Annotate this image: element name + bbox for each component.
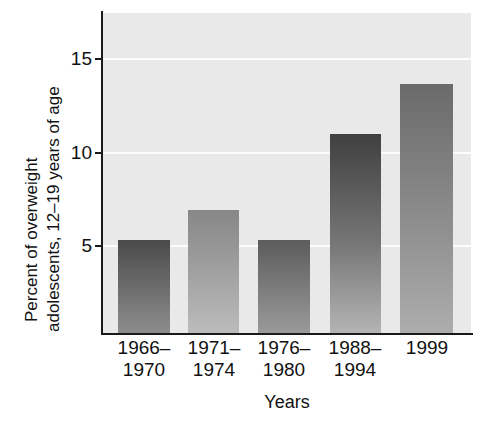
x-tick-label-2-line-1: 1971– xyxy=(178,337,250,359)
x-axis-line xyxy=(101,333,473,335)
chart-figure: Percent of overweight adolescents, 12–19… xyxy=(0,0,486,426)
plot-area xyxy=(103,13,471,333)
bar-1988-1994 xyxy=(330,134,381,333)
x-tick-label-5-line-1: 1999 xyxy=(391,337,463,359)
y-tick-label-5: 5 xyxy=(52,236,92,255)
bar-1971-1974 xyxy=(188,210,239,333)
bar-1999 xyxy=(400,84,453,333)
y-tick-label-10: 10 xyxy=(52,143,92,162)
gridline-15 xyxy=(103,58,471,60)
x-tick-label-4: 1988– 1994 xyxy=(319,337,391,381)
x-tick-label-3: 1976– 1980 xyxy=(248,337,320,381)
y-axis-title-line-1: Percent of overweight xyxy=(22,158,42,322)
x-axis-tick-labels: 1966– 1970 1971– 1974 1976– 1980 1988– 1… xyxy=(103,337,471,389)
x-tick-label-5: 1999 xyxy=(391,337,463,359)
x-tick-label-1-line-1: 1966– xyxy=(108,337,180,359)
bar-1966-1970 xyxy=(118,240,170,333)
x-tick-label-3-line-1: 1976– xyxy=(248,337,320,359)
x-axis-title: Years xyxy=(103,392,471,413)
x-tick-label-4-line-1: 1988– xyxy=(319,337,391,359)
bar-1976-1980 xyxy=(258,240,310,333)
y-axis-tick-labels: 15 10 5 xyxy=(48,0,92,340)
x-tick-label-1: 1966– 1970 xyxy=(108,337,180,381)
y-tick-label-15: 15 xyxy=(52,49,92,68)
x-tick-label-4-line-2: 1994 xyxy=(319,359,391,381)
x-tick-label-1-line-2: 1970 xyxy=(108,359,180,381)
x-tick-label-3-line-2: 1980 xyxy=(248,359,320,381)
x-tick-label-2-line-2: 1974 xyxy=(178,359,250,381)
x-tick-label-2: 1971– 1974 xyxy=(178,337,250,381)
